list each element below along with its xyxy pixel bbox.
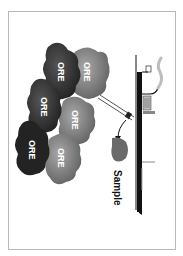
ore-label: ORE <box>39 97 49 117</box>
drill-rig <box>142 66 158 114</box>
sample-pile <box>111 138 128 162</box>
drill-hole <box>98 95 134 120</box>
ore-label: ORE <box>70 110 80 130</box>
ground-surface <box>136 55 142 215</box>
smoke-plume <box>158 58 162 88</box>
ore-label: ORE <box>27 140 37 160</box>
ore-label: ORE <box>82 62 92 82</box>
ore-label: ORE <box>56 148 66 168</box>
ore-sampling-diagram: ORE ORE ORE ORE ORE ORE Sample <box>0 0 183 256</box>
ore-label: ORE <box>56 62 66 82</box>
sample-label: Sample <box>112 170 123 206</box>
